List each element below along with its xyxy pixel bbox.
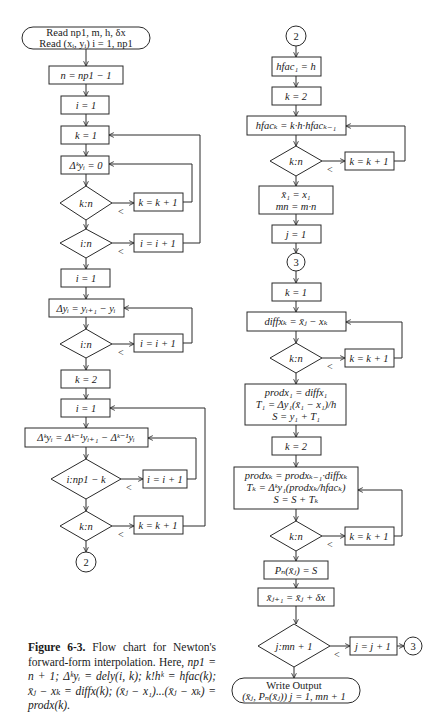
k-inc-box-r3: k = k + 1 <box>345 527 394 545</box>
svg-text:k = k + 1: k = k + 1 <box>349 531 388 542</box>
decision-k-n-2: k:n <box>60 511 112 541</box>
svg-text:k = 2: k = 2 <box>285 441 308 452</box>
k-inc-box-2: k = k + 1 <box>134 516 183 534</box>
dky-box: Δᵏyᵢ = Δᵏ⁻¹yᵢ₊₁ − Δᵏ⁻¹yᵢ <box>25 428 148 447</box>
i-init-box-3: i = 1 <box>61 399 110 417</box>
figure-caption: Figure 6-3. Flow chart for Newton's forw… <box>28 640 216 713</box>
svg-text:k = k + 1: k = k + 1 <box>138 197 177 208</box>
decision-k-n-r3: k:n <box>270 521 322 551</box>
svg-text:<: < <box>118 347 124 358</box>
svg-text:mn = m·n: mn = m·n <box>276 201 317 212</box>
svg-text:<: < <box>334 649 340 660</box>
svg-text:diffxₖ = x̄ⱼ − xₖ: diffxₖ = x̄ⱼ − xₖ <box>264 316 327 327</box>
diffx-box: diffxₖ = x̄ⱼ − xₖ <box>247 312 346 331</box>
k-init-box-2: k = 2 <box>61 370 110 388</box>
svg-text:k = 2: k = 2 <box>75 374 98 385</box>
svg-text:x̄₁ = x₁: x̄₁ = x₁ <box>281 189 311 200</box>
decision-k-n-r2: k:n <box>270 343 322 373</box>
connector-2-out: 2 <box>76 552 96 572</box>
j-init-box: j = 1 <box>272 225 321 243</box>
i-init-box-1: i = 1 <box>61 96 109 114</box>
i-inc-box-3: i = i + 1 <box>143 470 187 488</box>
svg-text:j = j + 1: j = j + 1 <box>353 641 391 652</box>
k-inc-box-1: k = k + 1 <box>134 193 183 211</box>
svg-text:i:n: i:n <box>80 238 92 249</box>
svg-text:S = y₁ + T₁: S = y₁ + T₁ <box>272 411 320 422</box>
svg-text:Pₙ(x̄ⱼ) = S: Pₙ(x̄ⱼ) = S <box>274 565 318 577</box>
svg-text:k:n: k:n <box>289 531 302 542</box>
k-inc-box-r1: k = k + 1 <box>345 152 394 170</box>
i-inc-box-2: i = i + 1 <box>134 334 183 352</box>
svg-text:i = i + 1: i = i + 1 <box>140 238 176 249</box>
k-init-box-1: k = 1 <box>61 126 109 144</box>
svg-text:prodxₖ = prodxₖ₋₁·diffxₖ: prodxₖ = prodxₖ₋₁·diffxₖ <box>244 470 348 481</box>
svg-text:2: 2 <box>83 557 88 568</box>
connector-3: 3 <box>287 253 305 271</box>
svg-text:3: 3 <box>410 641 415 652</box>
svg-text:T₁ = Δy₁(x̄₁ − x₁)/h: T₁ = Δy₁(x̄₁ − x₁)/h <box>256 399 336 411</box>
hfack-box: hfacₖ = k·h·hfacₖ₋₁ <box>247 116 346 135</box>
svg-text:k = 1: k = 1 <box>75 130 97 141</box>
svg-text:i = i + 1: i = i + 1 <box>140 338 176 349</box>
svg-text:3: 3 <box>293 257 298 268</box>
svg-text:<: < <box>327 361 333 372</box>
svg-text:n = np1 − 1: n = np1 − 1 <box>61 70 112 81</box>
hfac1-box: hfac₁ = h <box>272 57 321 76</box>
svg-text:i = 1: i = 1 <box>76 100 97 111</box>
svg-text:i = 1: i = 1 <box>76 273 97 284</box>
svg-text:i:n: i:n <box>80 339 92 350</box>
caption-label: Figure 6-3. <box>28 641 85 653</box>
svg-text:k:n: k:n <box>289 156 302 167</box>
start-line2: Read (xᵢ, yᵢ) i = 1, np1 <box>39 38 132 50</box>
pn-box: Pₙ(x̄ⱼ) = S <box>264 561 328 579</box>
svg-text:2: 2 <box>293 31 298 42</box>
svg-text:k = k + 1: k = k + 1 <box>138 520 177 531</box>
svg-text:k = k + 1: k = k + 1 <box>349 353 388 364</box>
decision-i-n-2: i:n <box>60 329 112 358</box>
x-next-box: x̄ⱼ₊₁ = x̄ⱼ + δx <box>258 588 334 606</box>
svg-text:i:np1 − k: i:np1 − k <box>66 474 105 485</box>
svg-text:<: < <box>327 164 333 175</box>
k-init-box-r2: k = 1 <box>272 283 321 301</box>
i-inc-box-1: i = i + 1 <box>134 234 183 252</box>
svg-text:Δᵏyᵢ = Δᵏ⁻¹yᵢ₊₁ − Δᵏ⁻¹yᵢ: Δᵏyᵢ = Δᵏ⁻¹yᵢ₊₁ − Δᵏ⁻¹yᵢ <box>36 432 135 443</box>
dky-zero-box: Δᵏyᵢ = 0 <box>61 156 109 174</box>
svg-text:j = 1: j = 1 <box>284 229 307 240</box>
connector-3-out: 3 <box>404 637 422 655</box>
svg-text:i = 1: i = 1 <box>76 403 97 414</box>
end-terminal: Write Output (x̄ⱼ, Pₙ(x̄ⱼ)) j = 1, mn + … <box>232 678 360 703</box>
j-inc-box: j = j + 1 <box>350 637 397 655</box>
init-x-box: x̄₁ = x₁ mn = m·n <box>259 186 333 214</box>
svg-text:S = S + Tₖ: S = S + Tₖ <box>274 494 319 505</box>
svg-text:Δᵏyᵢ = 0: Δᵏyᵢ = 0 <box>68 160 103 171</box>
svg-text:hfacₖ = k·h·hfacₖ₋₁: hfacₖ = k·h·hfacₖ₋₁ <box>256 120 337 131</box>
svg-text:<: < <box>327 539 333 550</box>
svg-text:k = 2: k = 2 <box>285 91 308 102</box>
svg-text:Write Output: Write Output <box>266 680 321 691</box>
block2-box: prodxₖ = prodxₖ₋₁·diffxₖ Tₖ = Δᵏy₁(prodx… <box>234 467 358 509</box>
svg-text:j:mn + 1: j:mn + 1 <box>274 641 313 652</box>
connector-2-in: 2 <box>286 26 306 46</box>
k-init-box-r3: k = 2 <box>272 437 321 455</box>
svg-text:x̄ⱼ₊₁ = x̄ⱼ + δx: x̄ⱼ₊₁ = x̄ⱼ + δx <box>266 592 326 603</box>
k-inc-box-r2: k = k + 1 <box>345 349 394 367</box>
svg-text:(x̄ⱼ, Pₙ(x̄ⱼ)) j = 1, mn: (x̄ⱼ, Pₙ(x̄ⱼ)) j = 1, mn + 1 <box>242 691 346 703</box>
svg-text:hfac₁ = h: hfac₁ = h <box>276 61 315 72</box>
block1-box: prodx₁ = diffx₁ T₁ = Δy₁(x̄₁ − x₁)/h S =… <box>245 384 346 425</box>
decision-j-mn: j:mn + 1 <box>258 624 330 667</box>
svg-text:k:n: k:n <box>79 198 92 209</box>
svg-text:k:n: k:n <box>79 521 92 532</box>
svg-text:k:n: k:n <box>289 353 302 364</box>
svg-text:k = k + 1: k = k + 1 <box>349 156 388 167</box>
svg-text:Tₖ = Δᵏy₁(prodxₖ/hfacₖ): Tₖ = Δᵏy₁(prodxₖ/hfacₖ) <box>246 482 346 494</box>
start-terminal: Read np1, m, h, δx Read (xᵢ, yᵢ) i = 1, … <box>22 27 150 50</box>
decision-k-n-r1: k:n <box>270 146 322 176</box>
flowchart: Read np1, m, h, δx Read (xᵢ, yᵢ) i = 1, … <box>0 0 447 715</box>
start-line1: Read np1, m, h, δx <box>46 27 126 38</box>
k-init-box-r1: k = 2 <box>272 87 321 105</box>
svg-text:<: < <box>118 529 124 540</box>
svg-text:Δyᵢ = yᵢ₊₁ − yᵢ: Δyᵢ = yᵢ₊₁ − yᵢ <box>56 303 116 314</box>
decision-i-n-1: i:n <box>60 229 112 258</box>
svg-text:prodx₁ = diffx₁: prodx₁ = diffx₁ <box>264 387 327 398</box>
decision-i-np1-k: i:np1 − k <box>51 459 121 499</box>
